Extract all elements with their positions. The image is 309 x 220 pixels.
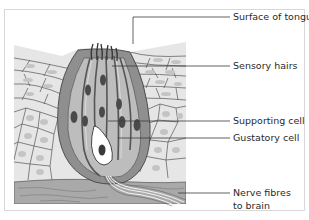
label-sensory-hairs: Sensory hairs: [233, 60, 298, 71]
label-supporting-cell: Supporting cell: [233, 115, 305, 126]
label-to-brain: to brain: [233, 200, 270, 211]
label-gustatory-cell: Gustatory cell: [233, 132, 299, 143]
label-nerve-fibres: Nerve fibres: [233, 187, 291, 198]
label-surface-of-tongue: Surface of tongue: [233, 11, 309, 22]
